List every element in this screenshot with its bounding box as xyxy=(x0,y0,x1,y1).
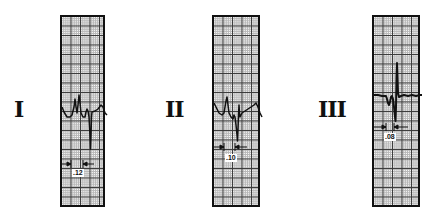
qrs-duration-lead-iii: .08 xyxy=(384,133,396,141)
ecg-trace-lead-i xyxy=(62,17,107,209)
ecg-strip-lead-ii: .10 xyxy=(212,15,260,207)
lead-label-i: I xyxy=(14,98,23,120)
lead-label-iii: III xyxy=(318,98,346,120)
ecg-strip-lead-iii: .08 xyxy=(372,15,420,207)
qrs-duration-lead-ii: .10 xyxy=(225,154,237,162)
qrs-measure-lead-ii xyxy=(212,143,247,151)
qrs-measure-lead-iii xyxy=(372,123,408,131)
ecg-strip-lead-i: .12 xyxy=(60,15,105,207)
lead-label-ii: II xyxy=(165,98,184,120)
ecg-trace-lead-iii xyxy=(374,17,422,209)
qrs-duration-lead-i: .12 xyxy=(72,169,84,177)
qrs-measure-lead-i xyxy=(60,160,94,168)
ecg-trace-lead-ii xyxy=(214,17,262,209)
